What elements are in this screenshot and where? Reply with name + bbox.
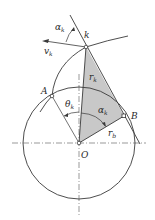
point-b-marker bbox=[122, 114, 126, 118]
label-v-k: vk bbox=[44, 46, 53, 57]
point-k-marker bbox=[84, 45, 88, 49]
velocity-vector bbox=[45, 41, 86, 47]
radius-rk-arc bbox=[86, 36, 128, 47]
label-k: k bbox=[84, 30, 89, 40]
label-theta-k: θk bbox=[65, 99, 74, 110]
label-r-b: rb bbox=[108, 128, 116, 139]
label-alpha-k-top: αk bbox=[55, 22, 65, 33]
point-o-marker bbox=[77, 141, 81, 145]
involute-curve-lower bbox=[40, 96, 52, 112]
involute-curve bbox=[52, 47, 86, 96]
theta-k-arrow-icon bbox=[64, 113, 68, 117]
alpha-k-top-arrow-icon bbox=[71, 27, 75, 31]
shaded-triangle-okb bbox=[79, 47, 124, 143]
label-o: O bbox=[81, 150, 89, 160]
involute-diagram: αk vk k rk A θk αk B rb O bbox=[0, 0, 155, 220]
label-a: A bbox=[40, 86, 48, 96]
point-a-marker bbox=[50, 94, 54, 98]
velocity-arrowhead-icon bbox=[42, 39, 49, 43]
label-b: B bbox=[130, 111, 138, 121]
